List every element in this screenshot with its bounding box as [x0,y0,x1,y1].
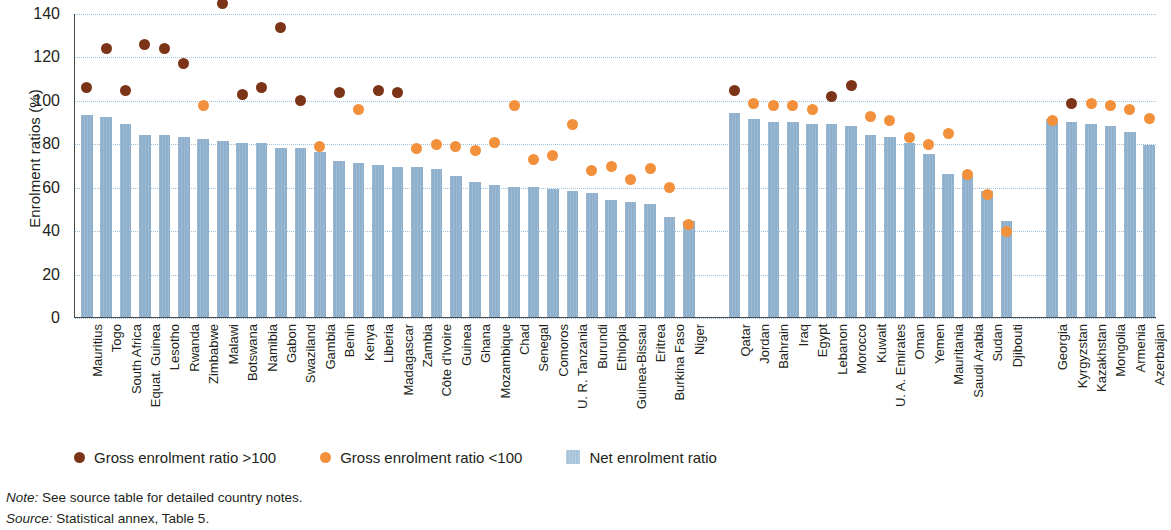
dot-gross-low-iraq [787,100,798,111]
dot-gross-high-benin [334,87,345,98]
x-tick-madagascar: Madagascar [402,324,415,396]
bar-ethiopia [605,200,617,317]
dot-gross-high-kyrgyzstan [1066,98,1077,109]
enrolment-ratios-figure: Enrolment ratios (%) 140120100806040200 … [0,0,1171,530]
x-tick-gabon: Gabon [285,324,298,363]
bar-senegal [528,187,540,317]
dot-gross-high-namibia [256,82,267,93]
x-tick-saudi-arabia: Saudi Arabia [972,324,985,398]
legend-label: Net enrolment ratio [589,449,717,466]
y-tick-60: 60 [16,180,60,196]
dot-gross-high-rwanda [178,58,189,69]
dot-gross-low-egypt [807,104,818,115]
dot-gross-low-armenia [1124,104,1135,115]
x-tick-mauritania: Mauritania [952,324,965,385]
bar-qatar [729,113,741,317]
x-tick-yemen: Yemen [933,324,946,364]
dot-gross-low-ghana [470,145,481,156]
x-tick-ghana: Ghana [479,324,492,363]
x-tick-namibia: Namibia [266,324,279,372]
dot-gross-low-kuwait [865,111,876,122]
bar-armenia [1124,132,1136,317]
x-tick-guinea: Guinea [460,324,473,366]
bar-zimbabwe [197,139,209,317]
bar-madagascar [392,167,404,317]
x-tick-benin: Benin [343,324,356,357]
bar-swaziland [295,148,307,317]
y-tick-40: 40 [16,223,60,239]
dot-gross-low-burkina-faso [664,182,675,193]
gridline-120 [75,57,1156,58]
x-axis-tick-labels: MauritiusTogoSouth AfricaEquat. GuineaLe… [74,318,1156,438]
dot-gross-high-botswana [237,89,248,100]
chart-legend: Gross enrolment ratio >100Gross enrolmen… [74,446,761,468]
dot-gross-low-jordan [748,98,759,109]
dot-gross-low-burundi [586,165,597,176]
dot-gross-high-qatar [729,85,740,96]
x-tick-kyrgyzstan: Kyrgyzstan [1076,324,1089,388]
dot-gross-low-comoros [547,150,558,161]
x-tick-gambia: Gambia [324,324,337,370]
bar-kenya [353,163,365,317]
dot-gross-low-eritrea [645,163,656,174]
bar-mozambique [489,185,501,317]
bar-kyrgyzstan [1066,122,1078,317]
x-tick-niger: Niger [693,324,706,355]
x-tick-malawi: Malawi [227,324,240,364]
bar-c-te-d-ivoire [431,169,443,317]
x-tick-botswana: Botswana [246,324,259,381]
source-line: Source: Statistical annex, Table 5. [6,509,302,530]
y-axis-tick-labels: 140120100806040200 [14,0,60,330]
bar-comoros [547,189,559,317]
legend-item-0[interactable]: Gross enrolment ratio >100 [74,449,276,466]
bar-morocco [845,126,857,317]
x-tick-djibouti: Djibouti [1011,324,1024,367]
legend-item-2[interactable]: Net enrolment ratio [566,449,717,466]
bar-eritrea [644,204,656,317]
x-tick-zambia: Zambia [421,324,434,367]
bar-yemen [923,154,935,317]
dot-gross-low-zambia [411,143,422,154]
note-label: Note: [6,490,38,505]
x-tick-liberia: Liberia [382,324,395,363]
x-tick-mauritius: Mauritius [91,324,104,377]
dot-gross-low-oman [904,132,915,143]
dot-gross-low-azerbaijan [1144,113,1155,124]
x-tick-rwanda: Rwanda [188,324,201,372]
x-tick-georgia: Georgia [1056,324,1069,370]
gridline-140 [75,14,1156,15]
dot-gross-high-mauritius [81,82,92,93]
bar-togo [100,117,112,317]
bar-iraq [787,122,799,317]
dot-gross-low-djibouti [1001,226,1012,237]
dot-gross-low-mozambique [489,137,500,148]
bar-jordan [748,119,760,317]
dot-gross-low-yemen [923,139,934,150]
dot-gross-high-swaziland [295,95,306,106]
dot-gross-high-liberia [373,85,384,96]
x-tick-u-r-tanzania: U. R. Tanzania [576,324,589,409]
x-tick-azerbaijan: Azerbaijan [1153,324,1166,385]
x-tick-south-africa: South Africa [130,324,143,394]
y-tick-120: 120 [16,49,60,65]
x-tick-bahrain: Bahrain [777,324,790,369]
bar-guinea-bissau [625,202,637,317]
bar-kazakhstan [1085,124,1097,317]
x-tick-senegal: Senegal [537,324,550,372]
x-tick-morocco: Morocco [855,324,868,374]
dot-gross-high-togo [101,43,112,54]
dot-gross-low-mauritania [943,128,954,139]
x-tick-comoros: Comoros [557,324,570,377]
figure-footnotes: Note: See source table for detailed coun… [6,488,302,530]
bar-u-r-tanzania [567,191,579,317]
bar-guinea [450,176,462,317]
legend-item-1[interactable]: Gross enrolment ratio <100 [320,449,522,466]
bar-mongolia [1105,126,1117,317]
bar-saudi-arabia [962,176,974,317]
legend-label: Gross enrolment ratio <100 [340,449,522,466]
bar-rwanda [178,137,190,317]
x-tick-lesotho: Lesotho [168,324,181,370]
source-text: Statistical annex, Table 5. [53,511,210,526]
x-tick-lebanon: Lebanon [836,324,849,375]
dot-gross-low-u-r-tanzania [567,119,578,130]
